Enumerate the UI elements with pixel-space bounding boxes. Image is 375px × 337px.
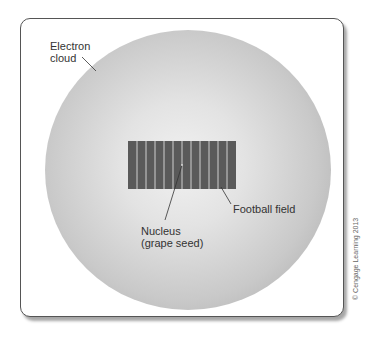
nucleus-label-line2: (grape seed) [141, 237, 203, 249]
nucleus-label: Nucleus (grape seed) [141, 225, 203, 249]
football-field-label: Football field [233, 203, 295, 215]
nucleus-dot [181, 164, 183, 166]
electron-cloud-label-line2: cloud [50, 52, 90, 64]
copyright-notice: © Cengage Learning 2013 [352, 218, 359, 300]
electron-cloud-label-line1: Electron [50, 40, 90, 52]
electron-cloud-label: Electron cloud [50, 40, 90, 64]
football-field-pointer [221, 187, 231, 204]
nucleus-label-line1: Nucleus [141, 225, 203, 237]
